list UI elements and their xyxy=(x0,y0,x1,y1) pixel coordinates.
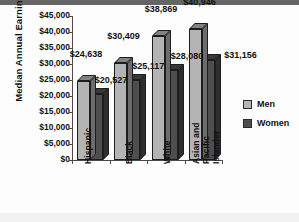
chart-legend: MenWomen xyxy=(243,99,289,137)
y-axis-line xyxy=(72,16,73,160)
data-label-men-0: $24,638 xyxy=(70,49,103,59)
y-axis-tick-label: $35,000 xyxy=(24,42,70,52)
data-label-women-2: $28,080 xyxy=(171,51,204,61)
x-axis-tick-mark xyxy=(222,160,223,164)
x-axis-category-label: Hispanic xyxy=(83,128,93,164)
y-axis-tick-mark xyxy=(69,96,73,97)
x-axis-category-label: Islander xyxy=(211,131,221,164)
legend-swatch-icon xyxy=(243,119,252,128)
data-label-women-1: $25,117 xyxy=(132,61,164,71)
x-axis-category-label: White xyxy=(162,140,172,164)
y-axis-tick-mark xyxy=(69,32,73,33)
y-axis-tick-mark xyxy=(69,112,73,113)
x-axis-category-label: Black xyxy=(124,141,134,164)
y-axis-tick-mark xyxy=(69,16,73,17)
x-axis-tick-mark xyxy=(147,160,148,164)
legend-item-women[interactable]: Women xyxy=(243,118,289,128)
y-axis-tick-label: $45,000 xyxy=(24,10,70,20)
y-axis-tick-mark xyxy=(69,144,73,145)
y-axis-tick-label: $15,000 xyxy=(24,106,70,116)
data-label-men-2: $38,869 xyxy=(145,4,178,14)
x-axis-tick-mark xyxy=(72,160,73,164)
y-axis-tick-label: $10,000 xyxy=(24,122,70,132)
x-axis-tick-mark xyxy=(110,160,111,164)
legend-label: Men xyxy=(257,99,275,109)
y-axis-tick-label: $20,000 xyxy=(24,90,70,100)
chart-canvas: Median Annual Earnings $0$5,000$10,000$1… xyxy=(0,0,299,222)
y-axis-tick-label: $0 xyxy=(24,154,70,164)
y-axis-tick-label: $25,000 xyxy=(24,74,70,84)
y-axis-tick-labels: $0$5,000$10,000$15,000$20,000$25,000$30,… xyxy=(20,0,70,222)
y-axis-tick-mark xyxy=(69,64,73,65)
x-axis-category-label: Pacific xyxy=(201,136,211,164)
legend-label: Women xyxy=(257,118,289,128)
bar-side-face xyxy=(178,64,184,160)
x-axis-category-label: Asian and xyxy=(191,122,201,164)
data-label-women-3: $31,156 xyxy=(224,50,257,60)
y-axis-tick-label: $5,000 xyxy=(24,138,70,148)
data-label-men-1: $30,409 xyxy=(107,31,140,41)
bar-side-face xyxy=(140,74,146,160)
data-label-women-0: $20,527 xyxy=(95,75,128,85)
data-label-men-3: $40,946 xyxy=(183,0,216,7)
y-axis-tick-mark xyxy=(69,128,73,129)
bar-side-face xyxy=(103,88,109,160)
y-axis-tick-label: $30,000 xyxy=(24,58,70,68)
y-axis-tick-label: $40,000 xyxy=(24,26,70,36)
x-axis-tick-mark xyxy=(185,160,186,164)
legend-swatch-icon xyxy=(243,100,252,109)
legend-item-men[interactable]: Men xyxy=(243,99,289,109)
y-axis-tick-mark xyxy=(69,80,73,81)
